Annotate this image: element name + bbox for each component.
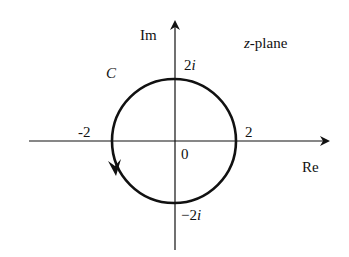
tick-neg-imag: −2i — [181, 207, 201, 223]
plane-suffix: -plane — [250, 35, 288, 51]
tick-pos-imag: 2i — [184, 57, 196, 73]
tick-pos-imag-num: 2 — [184, 57, 192, 73]
origin-label: 0 — [181, 146, 189, 162]
plane-title: z-plane — [243, 35, 288, 51]
tick-neg-imag-unit: i — [197, 207, 201, 223]
contour-label: C — [106, 65, 117, 81]
tick-neg-real: -2 — [78, 124, 91, 140]
tick-neg-imag-num: −2 — [181, 207, 197, 223]
complex-plane-diagram: Im Re 0 z-plane C 2i −2i 2 -2 — [0, 0, 349, 257]
x-axis-label: Re — [302, 159, 319, 175]
tick-pos-real: 2 — [245, 124, 253, 140]
y-axis-label: Im — [140, 27, 157, 43]
tick-pos-imag-unit: i — [192, 57, 196, 73]
